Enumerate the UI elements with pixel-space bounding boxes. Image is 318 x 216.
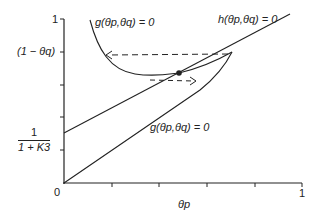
x-ticks [112, 183, 302, 187]
g-nullcline-lower [64, 52, 232, 183]
fraction-denominator: 1 + K3 [18, 141, 50, 154]
x-axis-label: θp [178, 199, 190, 210]
g-nullcline-upper [90, 20, 232, 75]
equilibrium-point [176, 70, 182, 76]
g-lower-label: g(θp,θq) = 0 [150, 122, 209, 133]
y-upper-tick-label: (1 − θq) [17, 46, 55, 57]
h-label: h(θp,θq) = 0 [218, 14, 277, 25]
fraction-numerator: 1 [18, 127, 50, 141]
y-lower-tick-label: 1 1 + K3 [18, 127, 50, 153]
phase-diagram [0, 0, 318, 216]
y-upper-tick-text: (1 − θq) [17, 45, 55, 57]
lower-dashed-arrow [150, 80, 194, 81]
origin-label: 0 [54, 187, 60, 198]
g-upper-label: g(θp,θq) = 0 [95, 17, 154, 28]
upper-dashed-arrow [108, 54, 228, 55]
y-max-label: 1 [52, 14, 58, 25]
x-max-label: 1 [299, 188, 305, 199]
